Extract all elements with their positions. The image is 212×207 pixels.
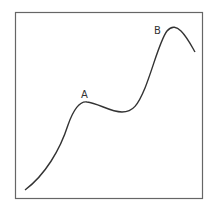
label-a: A	[81, 90, 88, 100]
label-b: B	[154, 26, 161, 36]
curve-diagram	[0, 0, 212, 207]
curve-line	[25, 27, 195, 190]
